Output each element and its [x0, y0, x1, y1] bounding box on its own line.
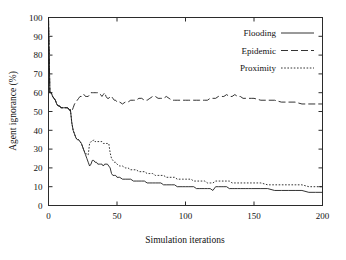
legend-label-epidemic: Epidemic: [242, 46, 277, 56]
y-tick-label: 20: [34, 163, 44, 173]
x-axis-title: Simulation iterations: [145, 235, 225, 245]
y-tick-label: 60: [34, 88, 44, 98]
legend-label-flooding: Flooding: [243, 28, 276, 38]
x-tick-label: 0: [46, 211, 51, 221]
x-tick-label: 200: [316, 211, 330, 221]
legend-label-proximity: Proximity: [240, 63, 277, 73]
y-tick-label: 70: [34, 69, 44, 79]
y-tick-label: 50: [34, 107, 44, 117]
y-tick-label: 30: [34, 144, 44, 154]
x-tick-label: 50: [113, 211, 123, 221]
y-tick-label: 90: [34, 32, 44, 42]
line-chart: 0102030405060708090100 050100150200 Simu…: [0, 0, 346, 260]
chart-figure: 0102030405060708090100 050100150200 Simu…: [0, 0, 346, 260]
y-axis-title: Agent ignorance (%): [8, 71, 19, 151]
x-tick-label: 100: [179, 211, 193, 221]
x-tick-label: 150: [247, 211, 261, 221]
y-tick-label: 40: [34, 126, 44, 136]
y-tick-label: 0: [38, 201, 43, 211]
y-tick-label: 10: [34, 182, 44, 192]
y-tick-label: 80: [34, 50, 44, 60]
y-tick-label: 100: [29, 13, 43, 23]
